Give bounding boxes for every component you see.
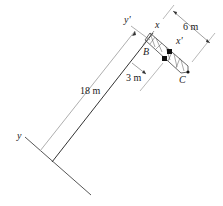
x-prime-axis-label: x' (176, 36, 183, 46)
x-axis-label: x (155, 20, 159, 30)
extension-line-6m-top (163, 5, 174, 19)
diagram-canvas: y y' x x' B C 18 m 3 m 6 m (0, 0, 223, 206)
extension-line-3m (140, 63, 163, 91)
offset-dimension: 3 m (126, 73, 141, 83)
tower-height-dimension: 18 m (80, 86, 100, 96)
ground-y-axis-line (25, 137, 91, 195)
y-axis-label: y (17, 131, 21, 141)
point-b-label: B (143, 47, 149, 57)
arrow-3m (142, 70, 146, 74)
tower-line (52, 33, 153, 162)
boom-length-dimension: 6 m (183, 22, 198, 32)
point-c-marker (186, 70, 189, 73)
y-prime-axis-label: y' (124, 15, 131, 25)
point-c-label: C (179, 75, 186, 85)
crane-cab-upper (167, 49, 172, 54)
crane-cab-lower (162, 56, 167, 61)
